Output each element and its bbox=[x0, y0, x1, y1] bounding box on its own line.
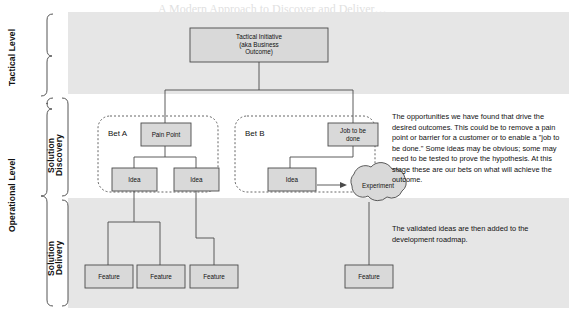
annotation-solution-delivery: The validated ideas are then added to th… bbox=[392, 224, 560, 245]
annotation-solution-discovery: The opportunities we have found that dri… bbox=[392, 112, 560, 186]
brace-tactical-level bbox=[41, 14, 53, 96]
diagram-canvas: A Modern Approach to Discover and Delive… bbox=[0, 0, 569, 316]
brace-solution-delivery bbox=[62, 200, 68, 306]
node-job-to-be-done bbox=[328, 123, 378, 146]
node-idea-a2 bbox=[174, 168, 219, 191]
node-idea-b1 bbox=[268, 168, 316, 191]
node-feature-1 bbox=[85, 265, 133, 288]
node-feature-4 bbox=[345, 265, 393, 288]
node-tactical-initiative bbox=[190, 28, 328, 62]
connector-idea-right-down bbox=[196, 191, 214, 265]
brace-solution-discovery bbox=[62, 98, 68, 196]
connector-job-to-idea bbox=[290, 146, 353, 168]
node-pain-point bbox=[141, 123, 191, 146]
node-feature-2 bbox=[137, 265, 185, 288]
node-idea-a1 bbox=[112, 168, 157, 191]
brace-operational-level bbox=[41, 98, 53, 196]
node-feature-3 bbox=[190, 265, 238, 288]
arrowhead-idea-to-experiment bbox=[340, 182, 347, 188]
brace-operational-level-lower bbox=[41, 196, 53, 306]
